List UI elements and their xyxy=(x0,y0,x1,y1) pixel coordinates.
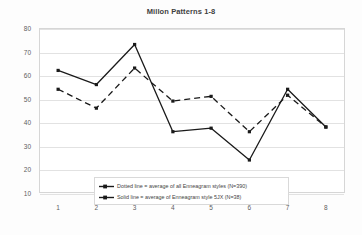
data-point-marker xyxy=(171,99,174,102)
data-point-marker xyxy=(248,130,251,133)
series-line xyxy=(58,68,326,132)
y-axis-tick-label: 10 xyxy=(24,190,31,197)
data-point-marker xyxy=(171,130,174,133)
data-point-marker xyxy=(95,107,98,110)
y-axis: 8070605040302010 xyxy=(0,28,36,193)
x-axis-tick-label: 4 xyxy=(171,204,175,211)
x-axis-tick-label: 1 xyxy=(56,204,60,211)
data-point-marker xyxy=(57,88,60,91)
legend-item-dotted: Dotted line = average of all Enneagram s… xyxy=(99,181,284,192)
y-axis-tick-label: 40 xyxy=(24,119,31,126)
data-point-marker xyxy=(95,83,98,86)
x-axis-tick-label: 2 xyxy=(95,204,99,211)
y-axis-tick-label: 30 xyxy=(24,142,31,149)
y-axis-tick-label: 70 xyxy=(24,48,31,55)
solid-line-icon xyxy=(99,193,114,202)
chart-legend: Dotted line = average of all Enneagram s… xyxy=(94,177,289,205)
data-point-marker xyxy=(210,95,213,98)
data-point-marker xyxy=(324,125,327,128)
series-line xyxy=(58,45,326,161)
data-point-marker xyxy=(248,158,251,161)
chart-container: Millon Patterns 1-8 8070605040302010 123… xyxy=(0,0,362,235)
chart-title: Millon Patterns 1-8 xyxy=(0,7,362,16)
data-point-marker xyxy=(286,94,289,97)
y-axis-tick-label: 60 xyxy=(24,72,31,79)
x-axis-tick-label: 3 xyxy=(133,204,137,211)
legend-label-dotted: Dotted line = average of all Enneagram s… xyxy=(117,182,247,191)
data-point-marker xyxy=(57,69,60,72)
y-axis-tick-label: 50 xyxy=(24,95,31,102)
series-layer xyxy=(39,28,345,193)
dashed-line-icon xyxy=(99,182,114,191)
x-axis-tick-label: 7 xyxy=(286,204,290,211)
x-axis-tick-label: 6 xyxy=(248,204,252,211)
y-axis-tick-label: 80 xyxy=(24,25,31,32)
data-point-marker xyxy=(133,66,136,69)
legend-label-solid: Solid line = average of Enneagram style … xyxy=(117,193,241,202)
data-point-marker xyxy=(133,43,136,46)
data-point-marker xyxy=(286,88,289,91)
data-point-marker xyxy=(210,127,213,130)
y-axis-tick-label: 20 xyxy=(24,166,31,173)
legend-item-solid: Solid line = average of Enneagram style … xyxy=(99,192,284,203)
x-axis-tick-label: 5 xyxy=(209,204,213,211)
x-axis-tick-label: 8 xyxy=(324,204,328,211)
